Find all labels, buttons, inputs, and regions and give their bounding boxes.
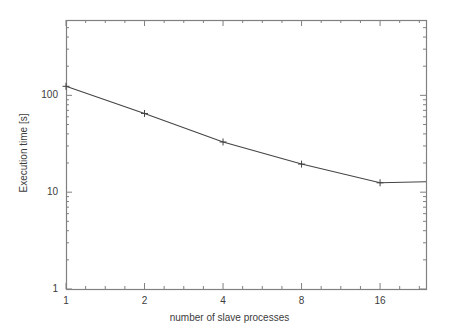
x-axis-label: number of slave processes (0, 313, 459, 323)
x-tick-label: 4 (208, 296, 238, 306)
x-tick-label: 2 (130, 296, 160, 306)
x-tick-label: 8 (287, 296, 317, 306)
y-tick-label: 1 (18, 284, 58, 294)
y-tick-label: 100 (18, 90, 58, 100)
data-point-markers (63, 83, 384, 186)
y-tick-label: 10 (18, 187, 58, 197)
data-series-line (66, 86, 426, 182)
axis-ticks (66, 20, 426, 289)
plot-frame (67, 21, 427, 290)
y-axis-label: Execution time [s] (19, 53, 29, 253)
plot-canvas (0, 0, 459, 334)
y-axis-label-container: Execution time [s] (10, 0, 34, 310)
chart-figure: Execution time [s] number of slave proce… (0, 0, 459, 334)
x-tick-label: 16 (365, 296, 395, 306)
x-tick-label: 1 (51, 296, 81, 306)
